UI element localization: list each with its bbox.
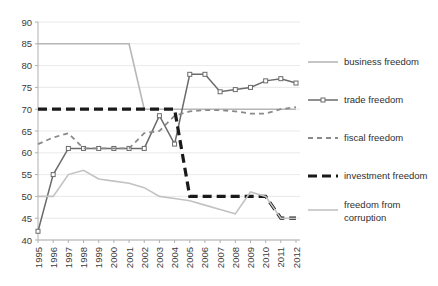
- y-tick-label: 85: [21, 38, 32, 49]
- x-tick-label: 1999: [93, 247, 104, 268]
- x-tick-label: 1997: [63, 247, 74, 268]
- series-marker-1: [264, 79, 268, 83]
- y-tick-label: 75: [21, 82, 32, 93]
- series-marker-1: [173, 142, 177, 146]
- x-tick-label: 2009: [245, 247, 256, 268]
- x-axis-ticks: 1995199619971998199920002001200220032004…: [33, 240, 302, 268]
- line-chart: 4045505560657075808590199519961997199819…: [0, 0, 438, 286]
- data-series-group: [36, 44, 298, 233]
- series-marker-1: [142, 146, 146, 150]
- y-tick-label: 65: [21, 126, 32, 137]
- series-marker-1: [203, 72, 207, 76]
- legend-label-3: investment freedom: [344, 170, 428, 181]
- legend-label-1: trade freedom: [344, 94, 403, 105]
- y-tick-label: 45: [21, 213, 32, 224]
- series-line-2: [38, 107, 296, 148]
- series-line-4: [38, 170, 296, 218]
- series-marker-1: [248, 85, 252, 89]
- legend-label-4-cont: corruption: [344, 212, 386, 223]
- series-marker-1: [233, 88, 237, 92]
- series-marker-1: [218, 90, 222, 94]
- series-marker-1: [51, 173, 55, 177]
- series-marker-1: [66, 146, 70, 150]
- x-tick-label: 1996: [48, 247, 59, 268]
- series-marker-1: [157, 114, 161, 118]
- x-tick-label: 2004: [169, 247, 180, 268]
- gridlines: [38, 22, 300, 240]
- y-tick-label: 40: [21, 235, 32, 246]
- series-line-0: [38, 44, 296, 109]
- x-tick-label: 1998: [78, 247, 89, 268]
- series-marker-1: [36, 229, 40, 233]
- x-tick-label: 2006: [199, 247, 210, 268]
- series-marker-1: [279, 77, 283, 81]
- series-marker-1: [294, 81, 298, 85]
- series-line-3: [38, 109, 296, 218]
- y-tick-label: 50: [21, 191, 32, 202]
- y-tick-label: 55: [21, 169, 32, 180]
- series-marker-1: [188, 72, 192, 76]
- legend-marker-1: [321, 98, 325, 102]
- x-tick-label: 2001: [124, 247, 135, 268]
- y-tick-label: 80: [21, 60, 32, 71]
- chart-container: 4045505560657075808590199519961997199819…: [0, 0, 438, 286]
- x-tick-label: 2011: [275, 247, 286, 267]
- x-tick-label: 2007: [215, 247, 226, 268]
- x-tick-label: 2010: [260, 247, 271, 268]
- y-tick-label: 70: [21, 104, 32, 115]
- y-axis-ticks: 4045505560657075808590: [21, 17, 38, 246]
- x-tick-label: 2008: [230, 247, 241, 268]
- x-tick-label: 2003: [154, 247, 165, 268]
- x-tick-label: 2012: [291, 247, 302, 268]
- y-tick-label: 90: [21, 17, 32, 28]
- x-tick-label: 2005: [184, 247, 195, 268]
- legend: business freedomtrade freedomfiscal free…: [308, 56, 428, 223]
- legend-label-4: freedom from: [344, 199, 401, 210]
- legend-label-2: fiscal freedom: [344, 132, 403, 143]
- y-tick-label: 60: [21, 147, 32, 158]
- x-tick-label: 2000: [108, 247, 119, 268]
- legend-label-0: business freedom: [344, 56, 419, 67]
- x-tick-label: 1995: [33, 247, 44, 268]
- x-tick-label: 2002: [139, 247, 150, 268]
